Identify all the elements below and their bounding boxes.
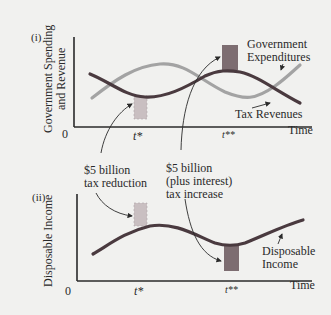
disposable-income-label: Disposable Income <box>262 245 315 271</box>
tax-increase-annotation: $5 billion (plus interest) tax increase <box>166 162 232 201</box>
panel-ii-xlabel: Time <box>290 279 315 292</box>
tax-reduction-bar-i <box>134 96 147 119</box>
panel-i-ylabel-line2: and Revenue <box>55 25 68 133</box>
tax-reduction-line2: tax reduction <box>84 177 147 190</box>
panel-i-tick-t1: t* <box>133 130 142 143</box>
panel-ii-tick-t1: t* <box>134 285 143 298</box>
panel-i-origin: 0 <box>62 128 68 141</box>
panel-i-ylabel: Government Spending and Revenue <box>42 25 68 133</box>
panel-ii-tick-t2: t** <box>225 283 238 296</box>
panel-ii-origin: 0 <box>65 285 71 298</box>
tax-reduction-annotation: $5 billion tax reduction <box>84 164 147 190</box>
disposable-income-pointer <box>278 234 282 244</box>
tax-increase-bar-i <box>222 45 238 70</box>
tax-revenues-label: Tax Revenues <box>235 108 302 121</box>
tax-reduction-bar-ii <box>134 203 147 226</box>
panel-i-tick-t2: t** <box>222 128 235 141</box>
panel-i-id: (i) <box>31 31 41 44</box>
tax-increase-bar-ii <box>224 244 239 271</box>
fiscal-policy-diagram: (i) Government Spending and Revenue 0 t*… <box>0 0 331 315</box>
tax-increase-line3: tax increase <box>166 188 232 201</box>
tax-reduction-arrow-down <box>96 193 132 216</box>
panel-i-xlabel: Time <box>288 124 313 137</box>
gov-expenditures-label-line2: Expenditures <box>247 51 310 64</box>
gov-expenditures-label: Government Expenditures <box>247 38 310 64</box>
tax-reduction-arrow-up <box>101 104 132 153</box>
panel-ii-ylabel: Disposable Income <box>42 195 55 287</box>
tax-increase-arrow-down <box>185 199 221 261</box>
disposable-income-label-line2: Income <box>262 258 315 271</box>
expenditures-pointer <box>281 64 283 70</box>
